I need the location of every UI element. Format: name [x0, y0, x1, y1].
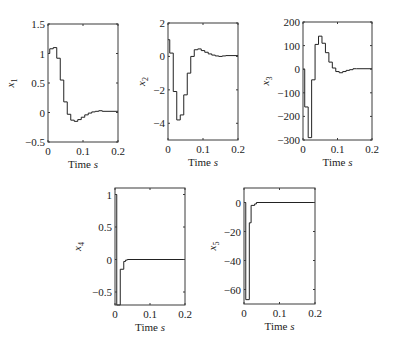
- subplot-x1: 00.10.21.510.50−0.5Time sx1: [4, 18, 125, 170]
- axes-box: [168, 23, 238, 140]
- x-tick-label: 0.2: [365, 143, 379, 155]
- y-tick-label: −300: [277, 134, 300, 146]
- axes-box: [303, 22, 372, 140]
- y-tick-label: −0.5: [25, 136, 45, 148]
- x-tick-label: 0.1: [331, 143, 345, 155]
- axes-box: [115, 188, 185, 305]
- subplots-figure: 00.10.21.510.50−0.5Time sx100.10.220−2−4…: [0, 0, 395, 347]
- x-tick-label: 0.1: [143, 308, 157, 320]
- y-tick-label: 0: [295, 63, 301, 75]
- y-tick-label: 1.5: [31, 18, 45, 30]
- y-axis-label: x5: [206, 242, 221, 252]
- axes-box: [48, 24, 118, 142]
- x-axis-label: Time s: [323, 156, 353, 168]
- y-tick-label: 200: [284, 16, 301, 28]
- x-tick-label: 0.2: [231, 143, 245, 155]
- y-tick-label: 2: [160, 17, 166, 29]
- x-tick-label: 0: [45, 145, 51, 157]
- x-axis-label: Time s: [188, 156, 218, 168]
- y-tick-label: 0: [160, 50, 166, 62]
- subplot-x2: 00.10.220−2−4Time sx2: [135, 17, 245, 168]
- x-tick-label: 0: [112, 308, 118, 320]
- x-axis-label: Time s: [68, 158, 98, 170]
- y-tick-label: 1: [107, 189, 113, 201]
- y-tick-label: −20: [224, 226, 242, 238]
- y-tick-label: −60: [224, 284, 242, 296]
- y-tick-label: 0: [107, 254, 113, 266]
- subplot-x3: 00.10.22001000−100−200−300Time sx3: [259, 16, 379, 168]
- y-tick-label: −2: [153, 84, 165, 96]
- y-tick-label: 0.5: [98, 221, 112, 233]
- data-line: [303, 36, 372, 137]
- y-tick-label: −100: [277, 87, 300, 99]
- x-axis-label: Time s: [135, 321, 165, 333]
- y-axis-label: x4: [71, 242, 86, 252]
- y-tick-label: 1: [40, 48, 46, 60]
- x-tick-label: 0: [165, 143, 171, 155]
- y-tick-label: −0.5: [92, 286, 112, 298]
- y-axis-label: x1: [4, 79, 19, 89]
- data-line: [244, 203, 315, 300]
- x-axis-label: Time s: [265, 320, 295, 332]
- subplot-x4: 00.10.210.50−0.5Time sx4: [71, 188, 192, 333]
- y-tick-label: 0: [40, 107, 46, 119]
- y-axis-label: x2: [135, 77, 150, 87]
- data-line: [48, 48, 118, 122]
- x-tick-label: 0.1: [273, 307, 287, 319]
- data-line: [168, 40, 238, 120]
- y-tick-label: −40: [224, 255, 242, 267]
- x-tick-label: 0.2: [111, 145, 125, 157]
- subplot-x5: 00.10.20−20−40−60Time sx5: [206, 188, 322, 332]
- y-tick-label: −4: [153, 117, 165, 129]
- x-tick-label: 0.1: [196, 143, 210, 155]
- y-tick-label: 0.5: [31, 77, 45, 89]
- y-axis-label: x3: [259, 77, 274, 87]
- x-tick-label: 0.1: [76, 145, 90, 157]
- x-tick-label: 0.2: [308, 307, 322, 319]
- x-tick-label: 0: [241, 307, 247, 319]
- data-line: [115, 195, 185, 306]
- y-tick-label: 0: [236, 197, 242, 209]
- x-tick-label: 0: [300, 143, 306, 155]
- x-tick-label: 0.2: [178, 308, 192, 320]
- y-tick-label: 100: [284, 40, 301, 52]
- y-tick-label: −200: [277, 110, 300, 122]
